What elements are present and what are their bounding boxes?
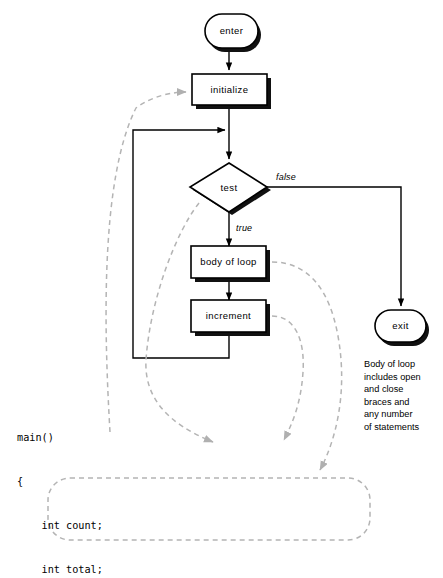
code-line: { <box>17 475 336 490</box>
node-initialize-label: initialize <box>211 84 249 95</box>
code-line: int count; <box>17 519 336 534</box>
edge-label-false: false <box>276 172 296 182</box>
node-enter: enter <box>205 14 261 52</box>
node-body-of-loop: body of loop <box>191 246 270 282</box>
node-body-of-loop-label: body of loop <box>200 256 257 267</box>
node-test: test <box>190 163 271 215</box>
node-test-label: test <box>221 182 238 193</box>
code-line: main() <box>17 431 336 446</box>
mapping-curve-initialize-to-declarations <box>106 92 186 432</box>
node-exit-label: exit <box>392 320 408 331</box>
source-code-block: main() { int count; int total; for (coun… <box>17 402 336 578</box>
edge-test-false-to-exit <box>267 187 401 306</box>
node-increment: increment <box>191 300 270 336</box>
node-exit: exit <box>375 310 429 346</box>
note-body-of-loop: Body of loop includes open and close bra… <box>364 358 442 434</box>
edge-label-true: true <box>236 223 252 233</box>
node-increment-label: increment <box>206 310 251 321</box>
code-line: int total; <box>17 563 336 578</box>
node-initialize: initialize <box>192 74 271 109</box>
node-enter-label: enter <box>220 25 244 36</box>
flowchart-canvas: enter initialize test body of loop incre… <box>0 0 443 578</box>
